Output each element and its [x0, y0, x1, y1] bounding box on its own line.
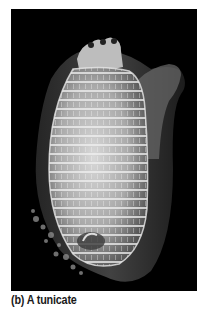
figure-caption: (b) A tunicate [11, 293, 77, 307]
tunicate-illustration [11, 9, 197, 291]
tunicate-photo [11, 9, 197, 291]
